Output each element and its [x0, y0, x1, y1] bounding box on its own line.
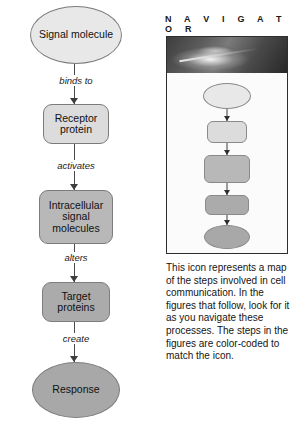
flow-node-signal: Signal molecule: [30, 6, 122, 64]
navigator-icon-panel: [166, 36, 288, 254]
signaling-flowchart: Signal molecule binds to Receptor protei…: [0, 0, 152, 432]
navigator-mini-flowchart: [167, 73, 287, 254]
edge-label-binds-to: binds to: [0, 75, 152, 86]
navigator-sidebar: N A V I G A T O R This icon represents a: [160, 0, 298, 432]
flow-node-intracellular-signal-molecules: Intracellular signal molecules: [39, 190, 113, 244]
flow-node-intracellular-label: Intracellular signal molecules: [40, 200, 112, 235]
micrograph-image: [167, 37, 287, 73]
figure-root: Signal molecule binds to Receptor protei…: [0, 0, 298, 432]
navigator-title: N A V I G A T O R: [165, 14, 298, 34]
navigator-caption: This icon represents a map of the steps …: [166, 262, 296, 363]
flow-node-receptor-label: Receptor protein: [44, 113, 108, 136]
flow-node-response: Response: [32, 362, 120, 418]
edge-label-activates: activates: [0, 160, 152, 171]
mini-node-signal: [203, 83, 251, 109]
flow-node-receptor: Receptor protein: [43, 104, 109, 144]
flow-node-signal-label: Signal molecule: [39, 29, 113, 41]
mini-node-target: [205, 195, 249, 215]
flow-node-response-label: Response: [52, 384, 99, 396]
flow-node-target-label: Target proteins: [43, 291, 109, 314]
flow-node-target-proteins: Target proteins: [42, 282, 110, 322]
mini-node-receptor: [207, 121, 247, 143]
edge-label-alters: alters: [0, 252, 152, 263]
edge-label-create: create: [0, 333, 152, 344]
mini-node-response: [204, 225, 250, 249]
mini-node-intracellular: [204, 155, 250, 183]
